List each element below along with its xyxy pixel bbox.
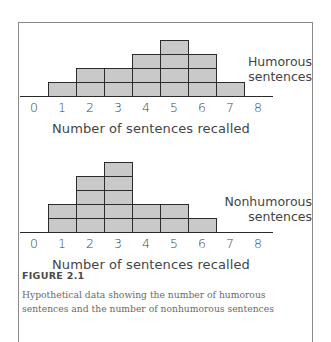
histogram-block: [160, 204, 189, 219]
x-tick-label: 7: [220, 100, 240, 115]
series-label-line1: Humorous: [240, 54, 312, 69]
histogram-block: [160, 68, 189, 83]
histogram-block: [76, 176, 105, 191]
x-tick-label: 6: [192, 100, 212, 115]
figure-title: FIGURE 2.1: [22, 270, 84, 281]
histogram-block: [216, 82, 245, 97]
x-tick-label: 4: [136, 100, 156, 115]
histogram-block: [160, 40, 189, 55]
x-tick-label: 2: [80, 100, 100, 115]
histogram-block: [188, 82, 217, 97]
x-tick-label: 0: [24, 236, 44, 251]
x-tick-label: 0: [24, 100, 44, 115]
histogram-block: [76, 204, 105, 219]
x-tick-label: 6: [192, 236, 212, 251]
histogram-block: [76, 82, 105, 97]
histogram-block: [104, 190, 133, 205]
series-label-line2: sentences: [240, 69, 312, 84]
histogram-block: [132, 54, 161, 69]
histogram-block: [104, 218, 133, 233]
series-label-humorous: Humorous sentences: [240, 54, 312, 84]
histogram-block: [132, 218, 161, 233]
histogram-block: [104, 176, 133, 191]
x-tick-label: 7: [220, 236, 240, 251]
histogram-block: [160, 218, 189, 233]
histogram-block: [76, 190, 105, 205]
figure-caption: Hypothetical data showing the number of …: [22, 288, 312, 316]
x-tick-label: 5: [164, 100, 184, 115]
histogram-block: [104, 162, 133, 177]
histogram-block: [160, 82, 189, 97]
x-tick-label: 1: [52, 100, 72, 115]
histogram-block: [188, 68, 217, 83]
x-tick-label: 3: [108, 236, 128, 251]
x-tick-label: 8: [248, 100, 268, 115]
histogram-block: [76, 218, 105, 233]
x-tick-label: 2: [80, 236, 100, 251]
x-tick-label: 4: [136, 236, 156, 251]
histogram-block: [188, 218, 217, 233]
histogram-block: [132, 82, 161, 97]
x-axis: [20, 232, 273, 233]
x-axis-label: Number of sentences recalled: [52, 121, 250, 136]
x-tick-label: 1: [52, 236, 72, 251]
series-label-line1: Nonhumorous: [220, 194, 312, 209]
histogram-block: [48, 204, 77, 219]
x-axis: [20, 96, 273, 97]
histogram-block: [132, 204, 161, 219]
histogram-block: [188, 54, 217, 69]
histogram-block: [48, 218, 77, 233]
histogram-block: [48, 82, 77, 97]
histogram-block: [104, 68, 133, 83]
series-label-line2: sentences: [220, 209, 312, 224]
series-label-nonhumorous: Nonhumorous sentences: [220, 194, 312, 224]
histogram-block: [132, 68, 161, 83]
histogram-block: [104, 82, 133, 97]
histogram-block: [76, 68, 105, 83]
histogram-block: [104, 204, 133, 219]
x-tick-label: 5: [164, 236, 184, 251]
x-tick-label: 3: [108, 100, 128, 115]
x-tick-label: 8: [248, 236, 268, 251]
histogram-block: [160, 54, 189, 69]
